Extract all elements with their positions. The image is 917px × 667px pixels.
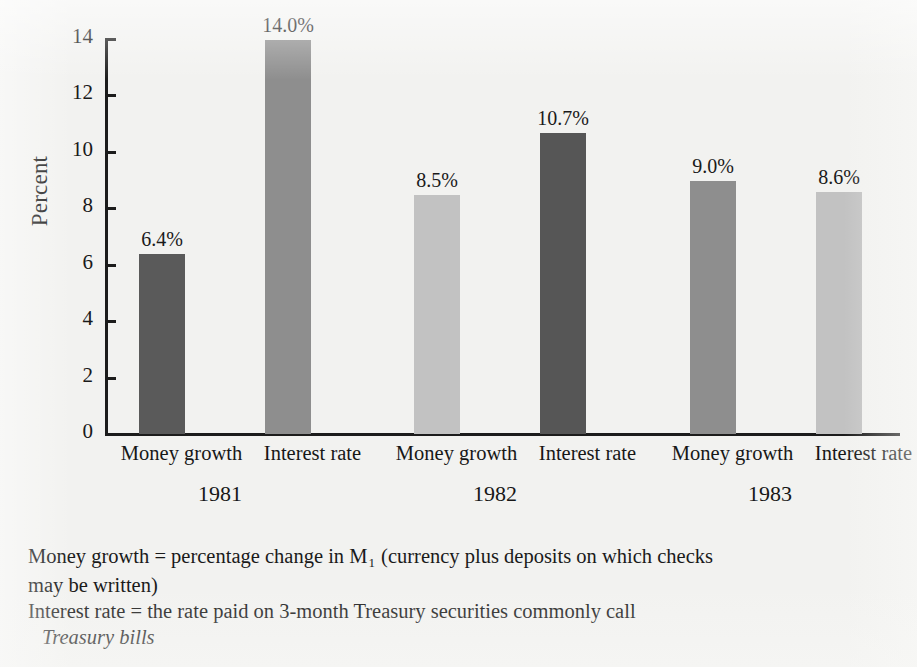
bar: 8.5% <box>414 195 460 434</box>
bar-rect <box>540 133 586 434</box>
y-axis-tick <box>105 94 116 97</box>
footnote-line-continued: may be written) <box>28 572 898 598</box>
bar-rect <box>139 254 185 434</box>
footnote-money-growth-prefix: Money growth = percentage change in M <box>28 545 367 567</box>
x-axis-category-label: Interest rate <box>240 443 385 464</box>
bar: 8.6% <box>816 192 862 434</box>
bar-rect <box>414 195 460 434</box>
footnote-money-growth-suffix: (currency plus deposits on which checks <box>376 545 713 567</box>
figure-bar-chart: Percent 02468101214 6.4%14.0%8.5%10.7%9.… <box>0 0 917 667</box>
footnote-m1-subscript: 1 <box>367 555 376 570</box>
y-axis-tick-label: 2 <box>53 365 93 386</box>
x-axis-category-label: Money growth <box>104 443 259 464</box>
bar-rect <box>816 192 862 434</box>
x-axis-category-label: Interest rate <box>515 443 660 464</box>
bar-value-label: 9.0% <box>692 156 734 176</box>
y-axis-label: Percent <box>27 131 53 251</box>
bar-rect <box>265 40 311 434</box>
y-axis-tick <box>105 264 116 267</box>
y-axis-tick <box>105 433 116 436</box>
y-axis-tick-label: 14 <box>53 26 93 47</box>
footnote-line-money-growth: Money growth = percentage change in M1 (… <box>28 543 898 572</box>
bar-value-label: 8.5% <box>416 170 458 190</box>
y-axis-tick <box>105 207 116 210</box>
x-axis-group-label: 1982 <box>385 483 605 505</box>
y-axis-tick-label: 4 <box>53 308 93 329</box>
y-axis-tick-label: 8 <box>53 195 93 216</box>
footnote-line-interest-rate: Interest rate = the rate paid on 3-month… <box>28 598 898 624</box>
footnote-treasury-bills: Treasury bills <box>42 624 898 650</box>
y-axis-tick-label: 10 <box>53 139 93 160</box>
y-axis-tick <box>105 151 116 154</box>
x-axis-spine <box>105 433 900 436</box>
bar: 6.4% <box>139 254 185 434</box>
bar: 9.0% <box>690 181 736 434</box>
bar: 10.7% <box>540 133 586 434</box>
bar-value-label: 10.7% <box>537 108 589 128</box>
bar-rect <box>690 181 736 434</box>
x-axis-group-label: 1983 <box>660 483 880 505</box>
x-axis-category-label: Money growth <box>655 443 810 464</box>
bar-value-label: 6.4% <box>141 229 183 249</box>
x-axis-category-label: Interest rate <box>791 443 917 464</box>
y-axis-tick <box>105 377 116 380</box>
footnote: Money growth = percentage change in M1 (… <box>28 543 898 650</box>
y-axis-tick-label: 0 <box>53 421 93 442</box>
bar: 14.0% <box>265 40 311 434</box>
y-axis-tick-label: 6 <box>53 252 93 273</box>
x-axis-category-label: Money growth <box>379 443 534 464</box>
y-axis-tick-label: 12 <box>53 82 93 103</box>
bar-value-label: 8.6% <box>818 167 860 187</box>
y-axis-tick <box>105 38 116 41</box>
y-axis-tick <box>105 320 116 323</box>
x-axis-group-label: 1981 <box>110 483 330 505</box>
bar-value-label: 14.0% <box>262 15 314 35</box>
